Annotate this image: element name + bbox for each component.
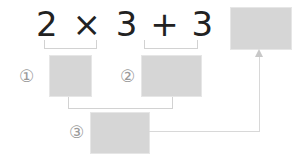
bracket-step-2 [144,40,198,49]
eq-num-3b: 3 [192,4,214,44]
eq-times: × [72,4,101,44]
marker-1: ① [19,67,34,85]
step-1-box[interactable] [49,55,92,97]
connector-vertical [259,54,260,132]
marker-2: ② [120,67,135,85]
eq-num-3: 3 [116,4,138,44]
marker-3: ③ [69,123,84,141]
arrow-up-icon [255,49,263,57]
eq-equals: = [304,4,306,44]
bracket-step-3 [68,97,173,109]
step-3-box[interactable] [90,112,150,154]
answer-box[interactable] [230,7,292,50]
eq-num-2: 2 [36,4,58,44]
step-2-box[interactable] [141,55,202,97]
bracket-step-1 [44,40,97,49]
eq-plus: + [150,4,179,44]
connector-horizontal [149,131,259,132]
